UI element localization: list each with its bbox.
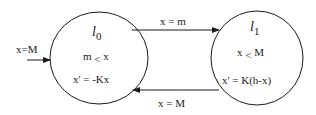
initial-label: x=M (16, 44, 37, 55)
location-l1-flow: x' = K(h-x) (222, 75, 271, 86)
transition-l1-to-l0-guard: x = M (158, 98, 185, 109)
location-l1-name: l1 (250, 20, 259, 34)
location-l0-name: l0 (92, 25, 101, 39)
location-l0-flow: x' = -Kx (73, 74, 109, 85)
transition-l0-to-l1-guard: x = m (160, 16, 186, 27)
location-l0-invariant: m < x (83, 51, 109, 62)
location-l1-invariant: x < M (237, 47, 264, 58)
